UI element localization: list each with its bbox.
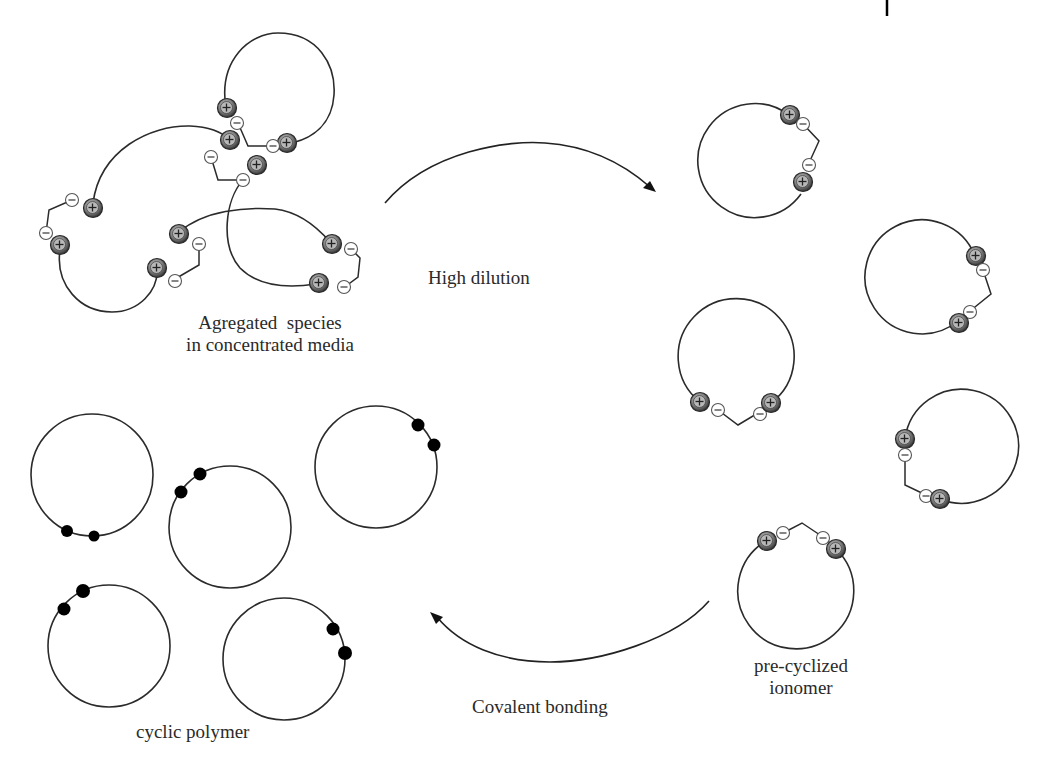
cation-icon (148, 259, 167, 278)
precyclized-ring (865, 220, 991, 334)
cation-icon (248, 156, 267, 175)
cation-icon (221, 131, 240, 150)
cation-icon (218, 99, 237, 118)
precyclized-ring (678, 299, 794, 425)
anion-icon (345, 243, 358, 256)
anion-icon (231, 117, 244, 130)
precyclized-ring (698, 104, 819, 218)
cation-icon (170, 225, 189, 244)
precyclized-label-line2: ionomer (754, 677, 848, 699)
cation-icon (278, 134, 297, 153)
anion-icon (237, 174, 250, 187)
aggregated-species (40, 33, 361, 312)
aggregated-label-line1: Agregated species (186, 312, 354, 334)
precyclized-ring (738, 523, 854, 649)
cation-icon (84, 199, 103, 218)
reaction-scheme (0, 0, 1038, 765)
aggregated-label-line2: in concentrated media (186, 334, 354, 356)
anion-icon (40, 227, 53, 240)
cation-icon (323, 235, 342, 254)
precyclized-ionomers (678, 104, 1018, 649)
anion-icon (193, 238, 206, 251)
cyclic-ring (169, 466, 291, 588)
anion-icon (205, 151, 218, 164)
anion-icon (66, 194, 79, 207)
anion-icon (338, 281, 351, 294)
precyclized-ring (896, 389, 1019, 508)
covalent-bonding-arrow (430, 601, 709, 662)
high-dilution-label: High dilution (428, 267, 530, 289)
cation-icon (51, 236, 70, 255)
cyclic-ring (48, 584, 170, 707)
cyclic-polymers (31, 406, 441, 720)
precyclized-label: pre-cyclized ionomer (754, 655, 848, 699)
anion-icon (267, 140, 280, 153)
cation-icon (310, 274, 329, 293)
covalent-bonding-label: Covalent bonding (472, 696, 608, 718)
anion-icon (169, 275, 182, 288)
high-dilution-arrow (385, 143, 656, 203)
precyclized-label-line1: pre-cyclized (754, 655, 848, 677)
cyclic-polymer-label: cyclic polymer (136, 721, 249, 743)
cyclic-ring (223, 598, 352, 720)
cyclic-ring (315, 406, 441, 528)
aggregated-label: Agregated species in concentrated media (186, 312, 354, 356)
cyclic-ring (31, 414, 153, 542)
